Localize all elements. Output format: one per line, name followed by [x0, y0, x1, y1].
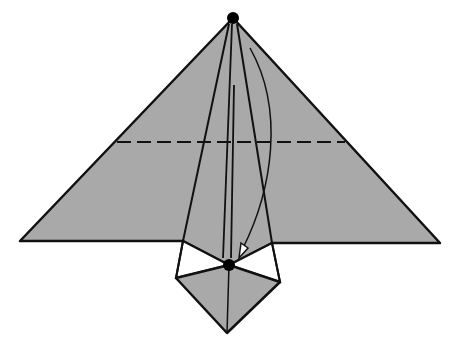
diagram-canvas [0, 0, 451, 345]
origami-diagram: Origami triangle fold step: fold the top… [0, 0, 451, 345]
lower-point-dot [223, 259, 235, 271]
top-point-dot [227, 12, 239, 24]
